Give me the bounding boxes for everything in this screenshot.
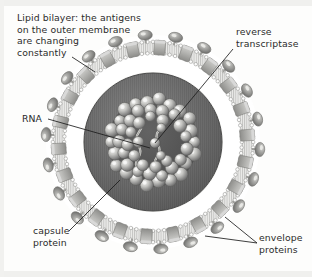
capsid-sphere-specular <box>158 172 161 175</box>
bilayer-bead <box>230 203 234 207</box>
capsid-sphere-body <box>145 111 155 121</box>
capsid-sphere-specular <box>131 152 135 156</box>
bilayer-bead <box>229 97 233 101</box>
capsid-sphere-specular <box>116 117 120 121</box>
bilayer-bead <box>65 162 69 166</box>
bilayer-bead <box>129 226 133 230</box>
label-capsule-protein: capsule protein <box>33 225 69 248</box>
capsid-sphere <box>173 119 186 132</box>
bilayer-bead <box>55 168 59 172</box>
bilayer-bead <box>179 225 183 229</box>
capsid-sphere-specular <box>159 116 163 120</box>
capsid-sphere-specular <box>183 145 187 149</box>
bilayer-bead <box>248 113 252 117</box>
virus-diagram-canvas: Lipid bilayer: the antigens on the outer… <box>0 0 312 277</box>
capsid-sphere <box>137 159 149 171</box>
bilayer-bead <box>244 179 248 183</box>
bilayer-bead <box>66 194 70 198</box>
capsid-sphere <box>132 104 145 117</box>
bilayer-bead <box>134 239 138 243</box>
capsule-protein <box>154 40 166 55</box>
capsid-sphere <box>125 127 136 138</box>
capsid-sphere-body <box>173 119 186 132</box>
label-envelope-proteins: envelope proteins <box>259 232 303 255</box>
capsid-sphere <box>180 131 191 142</box>
capsid-sphere-specular <box>126 116 130 120</box>
capsid-sphere-specular <box>186 114 190 118</box>
capsid-sphere <box>150 161 162 173</box>
bilayer-bead <box>63 135 67 139</box>
capsid-sphere-specular <box>123 160 127 164</box>
bilayer-bead <box>79 88 83 92</box>
capsid-sphere-specular <box>158 125 161 128</box>
bilayer-bead <box>203 212 207 216</box>
capsid-sphere-specular <box>118 125 122 129</box>
bilayer-bead <box>59 102 63 106</box>
capsid-sphere-specular <box>152 163 156 167</box>
bilayer-bead <box>67 113 71 117</box>
bilayer-bead <box>73 78 77 82</box>
capsid-sphere-specular <box>132 100 136 104</box>
capsid-sphere <box>156 151 165 160</box>
capsid-sphere-specular <box>158 107 162 111</box>
capsid-sphere-specular <box>147 113 150 116</box>
bilayer-bead <box>179 44 183 48</box>
reverse-transcriptase-specular <box>152 140 155 143</box>
bilayer-bead <box>208 209 212 213</box>
bilayer-bead <box>162 228 166 232</box>
bilayer-bead <box>89 62 93 66</box>
capsid-sphere-body <box>156 151 165 160</box>
capsid-sphere-specular <box>135 119 139 123</box>
capsid-sphere-specular <box>111 148 115 152</box>
capsid-sphere-body <box>137 159 149 171</box>
capsid-sphere-specular <box>182 133 185 136</box>
capsid-sphere-specular <box>147 106 151 110</box>
capsid-sphere <box>180 142 193 155</box>
capsid-sphere-specular <box>134 168 137 171</box>
bilayer-bead <box>238 124 242 128</box>
bilayer-bead <box>113 221 117 225</box>
bilayer-bead <box>240 146 244 150</box>
label-lipid-bilayer: Lipid bilayer: the antigens on the outer… <box>17 12 141 58</box>
capsid-sphere-specular <box>127 128 130 131</box>
capsid-sphere-body <box>180 131 191 142</box>
capsid-sphere-body <box>133 117 145 129</box>
label-rna: RNA <box>22 113 42 125</box>
capsid-sphere-specular <box>191 138 195 142</box>
bilayer-bead <box>251 140 255 144</box>
bilayer-bead <box>63 129 67 133</box>
capsid-sphere-specular <box>176 121 180 125</box>
bilayer-bead <box>189 60 193 64</box>
bottom-edge-shade <box>0 271 312 277</box>
bilayer-bead <box>226 73 230 77</box>
capsid-sphere-specular <box>139 161 143 165</box>
bilayer-bead <box>239 151 243 155</box>
capsid-sphere-body <box>150 161 162 173</box>
bilayer-bead <box>69 108 73 112</box>
bilayer-bead <box>99 68 103 72</box>
bilayer-bead <box>236 87 240 91</box>
top-edge-shade <box>0 0 312 6</box>
bilayer-bead <box>251 151 255 155</box>
capsid-sphere-body <box>132 104 145 117</box>
bilayer-bead <box>194 62 198 66</box>
capsule-protein <box>240 129 255 141</box>
capsid-sphere <box>133 117 145 129</box>
bilayer-bead <box>52 129 56 133</box>
bilayer-bead <box>52 157 56 161</box>
bilayer-bead <box>168 41 172 45</box>
bilayer-bead <box>162 240 166 244</box>
bilayer-bead <box>87 201 91 205</box>
capsid-sphere-specular <box>158 152 161 155</box>
bilayer-bead <box>205 55 209 59</box>
bilayer-bead <box>168 53 172 57</box>
capsule-protein <box>140 229 152 244</box>
left-edge-shade <box>0 0 4 277</box>
bilayer-bead <box>214 219 218 223</box>
capsid-sphere-specular <box>171 111 175 115</box>
bilayer-bead <box>190 233 194 237</box>
bilayer-bead <box>64 157 68 161</box>
bilayer-bead <box>236 168 240 172</box>
bilayer-bead <box>124 237 128 241</box>
bilayer-bead <box>216 79 220 83</box>
